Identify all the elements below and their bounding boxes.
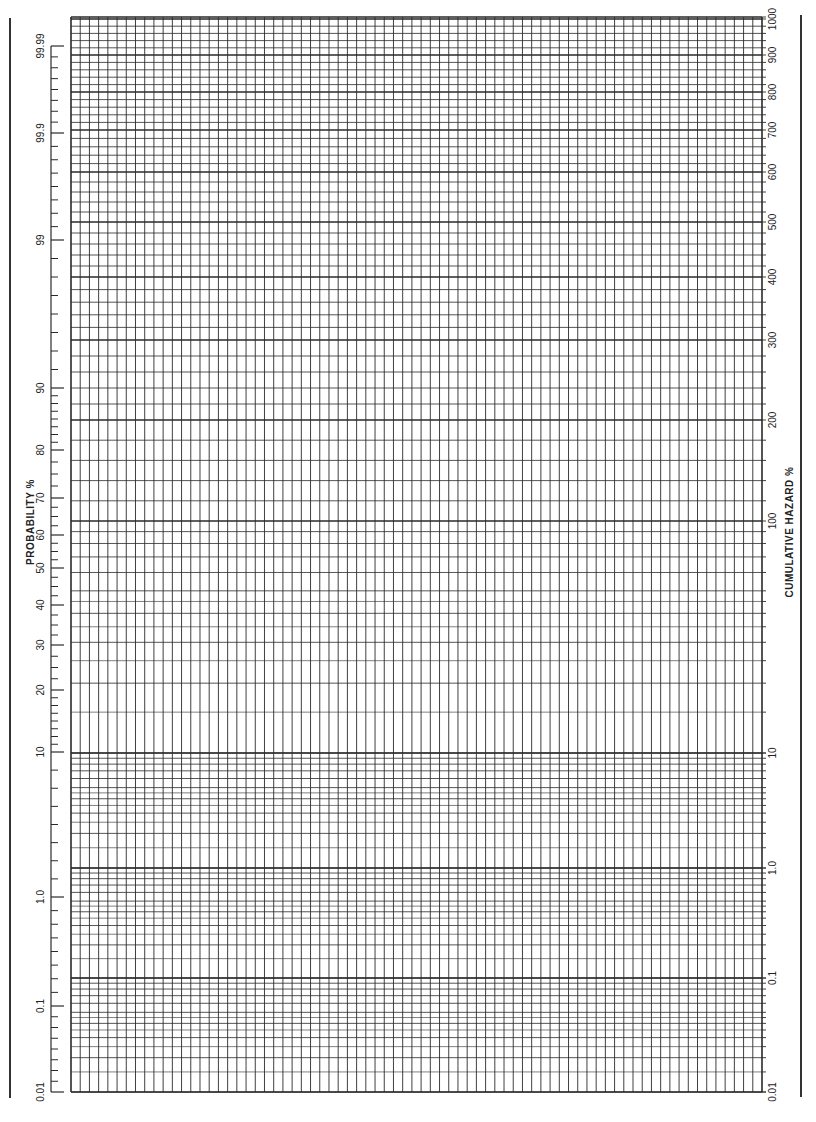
left-axis-tick-label: 99 — [35, 234, 46, 245]
left-axis-tick-label: 40 — [35, 599, 46, 610]
left-axis-tick-label: 60 — [35, 529, 46, 540]
left-border-line — [9, 18, 11, 1098]
right-axis-tick-label: 800 — [767, 84, 778, 101]
right-axis-title: CUMULATIVE HAZARD % — [784, 467, 795, 598]
left-axis-title: PROBABILITY % — [25, 479, 36, 565]
left-axis-tick-label: 30 — [35, 639, 46, 650]
left-axis-tick-label: 70 — [35, 492, 46, 503]
left-axis-tick-label: 0.01 — [35, 1082, 46, 1101]
left-axis-tick-label: 99.99 — [35, 33, 46, 58]
right-axis-tick-label: 900 — [767, 47, 778, 64]
right-axis-tick-label: 600 — [767, 164, 778, 181]
left-axis-tick-label: 50 — [35, 562, 46, 573]
right-axis-tick-label: 1000 — [767, 8, 778, 30]
left-axis-tick-label: 99.9 — [35, 123, 46, 142]
left-axis-tick-label: 1.0 — [35, 890, 46, 904]
left-axis-tick-label: 0.1 — [35, 999, 46, 1013]
right-axis-tick-label: 300 — [767, 332, 778, 349]
grid — [0, 0, 816, 1122]
right-axis-tick-label: 500 — [767, 214, 778, 231]
plotting-paper: 99.9999.9999080706050403020101.00.10.01 … — [0, 0, 816, 1122]
right-axis-tick-label: 0.1 — [767, 971, 778, 985]
right-axis-tick-label: 10 — [767, 747, 778, 758]
left-axis-tick-label: 80 — [35, 444, 46, 455]
left-axis-tick-label: 10 — [35, 746, 46, 757]
right-axis-tick-label: 200 — [767, 412, 778, 429]
right-axis-tick-label: 400 — [767, 269, 778, 286]
right-axis-tick-label: 700 — [767, 122, 778, 139]
left-axis-tick-label: 20 — [35, 684, 46, 695]
right-axis-tick-label: 0.01 — [767, 1082, 778, 1101]
right-border-line — [800, 15, 802, 1097]
right-axis-tick-label: 1.0 — [767, 861, 778, 875]
right-axis-tick-label: 100 — [767, 513, 778, 530]
left-axis-tick-label: 90 — [35, 382, 46, 393]
